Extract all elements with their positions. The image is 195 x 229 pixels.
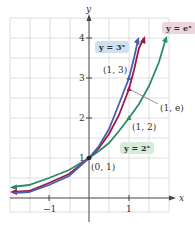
arrow-2x-left-icon	[10, 185, 17, 191]
y-tick-2: 2	[79, 113, 85, 123]
point-0-1	[87, 156, 91, 160]
legend-2x: y = 2ˣ	[120, 142, 154, 154]
label-1-3: (1, 3)	[103, 65, 127, 75]
y-axis-label: y	[85, 4, 92, 14]
exponential-chart: x y −1 1 1 2 3 4 (0, 1) (1, 3) (1, e) (1…	[0, 0, 195, 229]
point-1-3-marker	[127, 75, 132, 80]
x-tick-minus1: −1	[43, 204, 56, 214]
y-tick-3: 3	[79, 73, 85, 83]
point-1-e-marker	[127, 86, 132, 91]
legend-ex: y = eˣ	[162, 22, 195, 34]
x-axis-label: x	[179, 193, 184, 203]
leader-1-e	[131, 90, 158, 104]
label-0-1: (0, 1)	[91, 162, 115, 172]
y-axis-arrow-icon	[87, 14, 92, 21]
x-axis-arrow-icon	[169, 196, 176, 201]
y-tick-4: 4	[79, 33, 85, 43]
curve-3x	[13, 40, 138, 193]
label-1-2: (1, 2)	[132, 122, 156, 132]
legend-3x: y = 3ˣ	[95, 41, 129, 53]
x-tick-1: 1	[126, 204, 132, 214]
label-1-e: (1, e)	[160, 103, 184, 113]
arrow-2x-right-icon	[162, 36, 168, 43]
